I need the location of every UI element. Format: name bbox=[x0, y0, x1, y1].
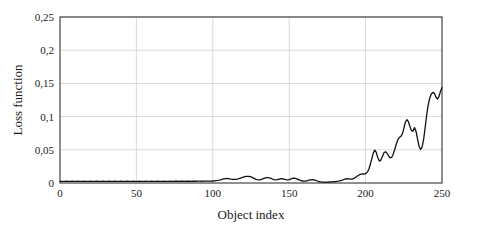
x-tick-label: 150 bbox=[281, 187, 298, 199]
loss-function-line-chart: 00,050,10,150,20,25 050100150200250 Obje… bbox=[0, 0, 480, 229]
y-tick-label: 0,15 bbox=[35, 77, 55, 89]
x-tick-label: 200 bbox=[357, 187, 374, 199]
x-tick-label: 50 bbox=[131, 187, 143, 199]
y-tick-label: 0,05 bbox=[35, 144, 55, 156]
chart-figure: 00,050,10,150,20,25 050100150200250 Obje… bbox=[0, 0, 480, 229]
x-tick-label: 0 bbox=[57, 187, 63, 199]
x-tick-label: 250 bbox=[434, 187, 451, 199]
y-tick-label: 0,25 bbox=[35, 11, 55, 23]
chart-background bbox=[0, 0, 480, 229]
y-tick-label: 0,2 bbox=[40, 44, 54, 56]
y-tick-label: 0 bbox=[49, 177, 55, 189]
y-axis-title: Loss function bbox=[10, 64, 25, 136]
x-tick-label: 100 bbox=[205, 187, 222, 199]
x-axis-title: Object index bbox=[218, 207, 285, 222]
y-tick-label: 0,1 bbox=[40, 111, 54, 123]
